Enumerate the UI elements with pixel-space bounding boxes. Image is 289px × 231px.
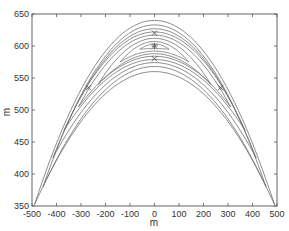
x-tick-label: 500 — [269, 209, 284, 219]
x-tick-label: -100 — [121, 209, 139, 219]
y-tick-label: 500 — [14, 105, 29, 115]
x-tick-label: 400 — [245, 209, 260, 219]
y-tick-label: 350 — [14, 201, 29, 211]
y-tick-label: 450 — [14, 137, 29, 147]
y-tick-label: 550 — [14, 73, 29, 83]
x-tick-label: -300 — [72, 209, 90, 219]
y-tick-label: 400 — [14, 169, 29, 179]
y-tick-label: 650 — [14, 9, 29, 19]
y-axis-label: m — [1, 108, 12, 116]
x-marker-icon — [152, 56, 157, 61]
x-axis-label: m — [150, 217, 158, 228]
star-marker-icon — [151, 43, 157, 49]
y-tick-label: 600 — [14, 41, 29, 51]
x-tick-label: 300 — [220, 209, 235, 219]
x-tick-label: 200 — [196, 209, 211, 219]
contour-chart: -500-400-300-200-1000100200300400500 350… — [0, 0, 289, 231]
x-tick-label: 100 — [171, 209, 186, 219]
x-tick-label: -200 — [96, 209, 114, 219]
x-tick-label: -400 — [47, 209, 65, 219]
